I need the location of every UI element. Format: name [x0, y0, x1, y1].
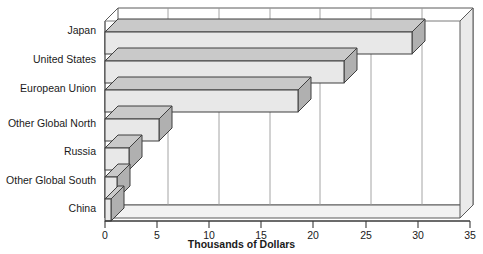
x-axis-title: Thousands of Dollars — [0, 238, 483, 250]
x-axis — [105, 221, 470, 228]
bar-chart: Japan United States European Union Other… — [0, 0, 483, 254]
plot-right-wall — [460, 8, 473, 218]
plot-floor — [105, 205, 473, 218]
plot-area — [0, 0, 483, 254]
